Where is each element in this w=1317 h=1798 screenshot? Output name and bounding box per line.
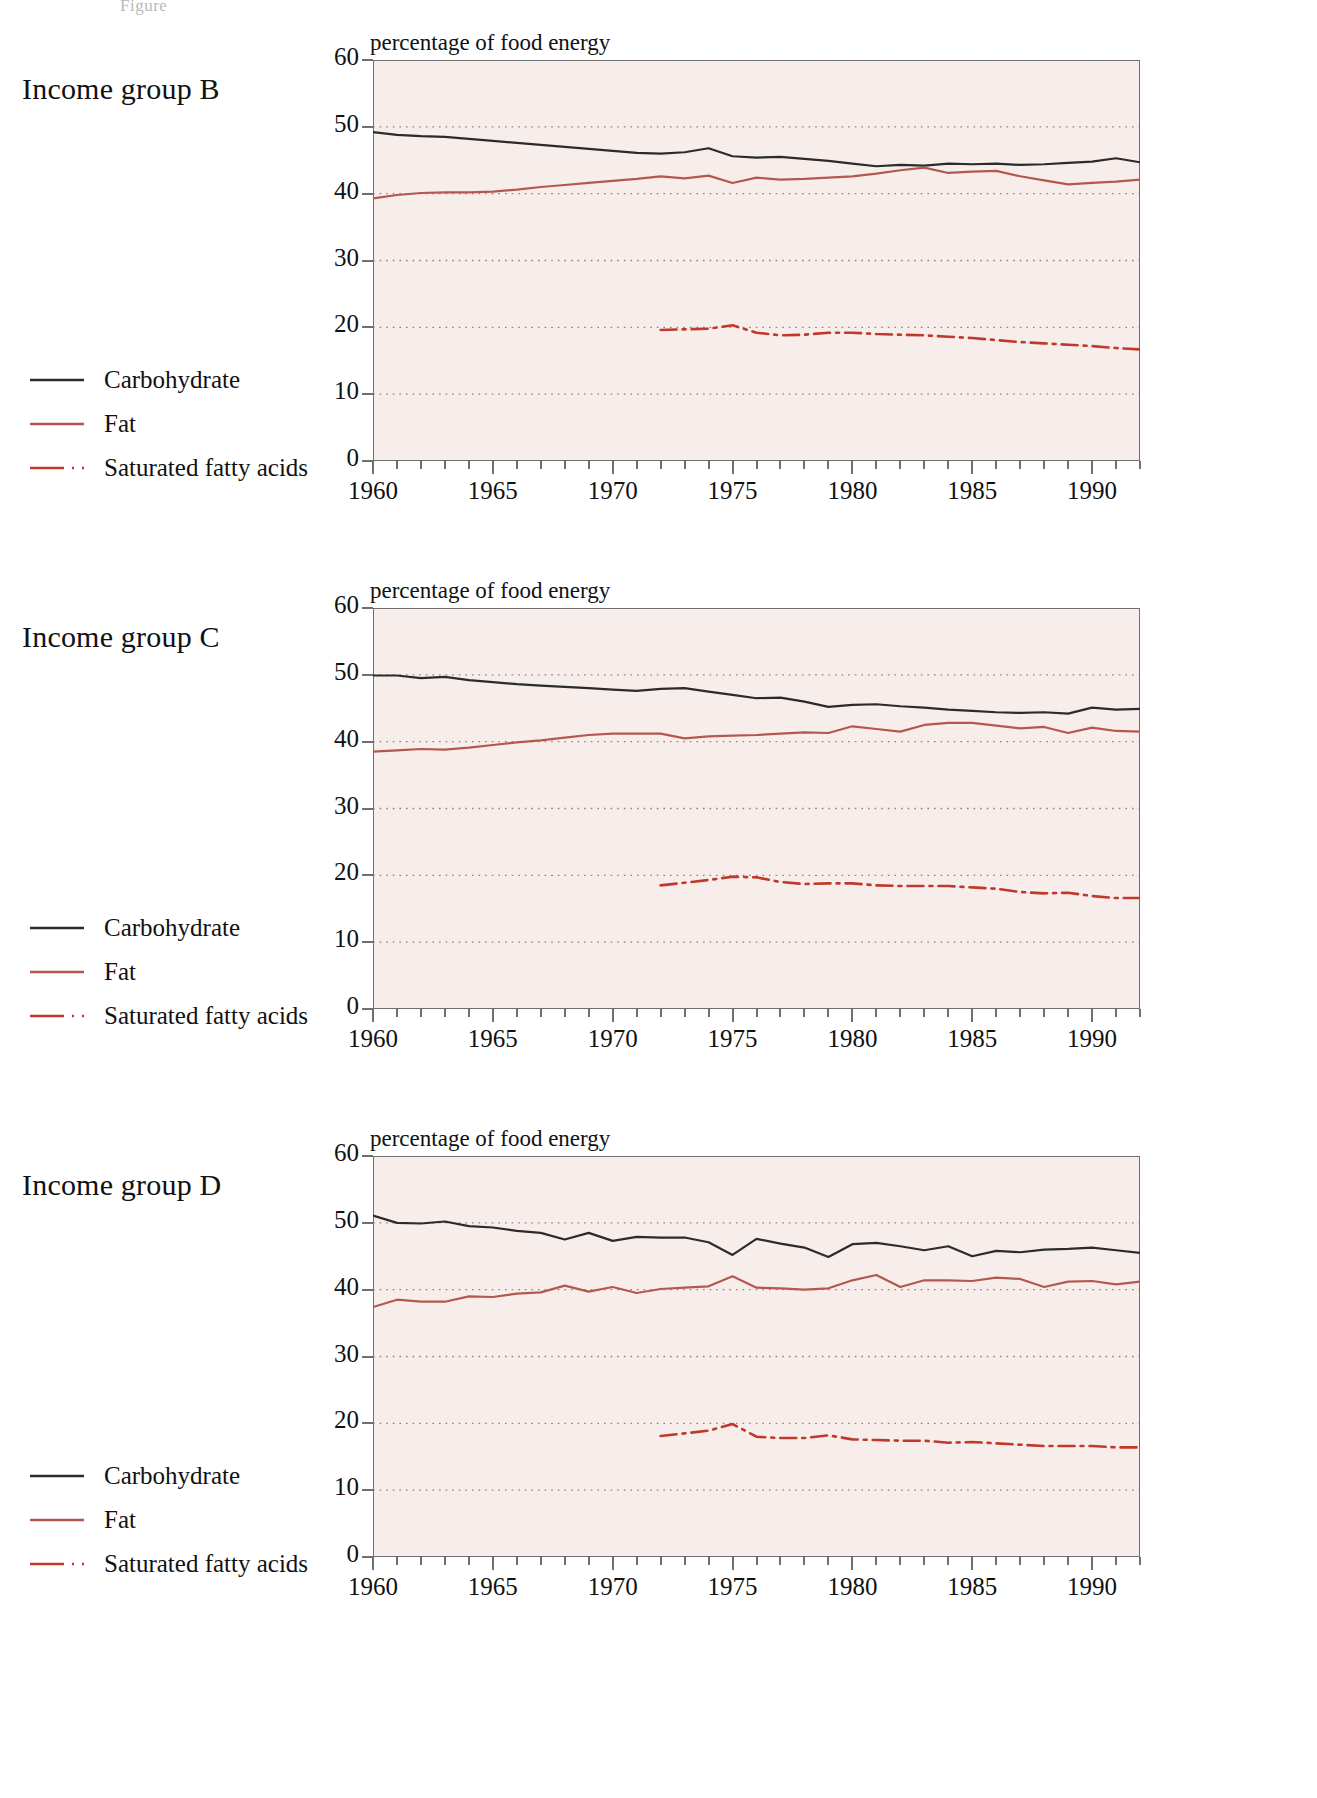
y-tick-label: 0: [301, 444, 359, 472]
x-tick-mark-minor: [875, 461, 877, 469]
x-tick-mark-major: [612, 1557, 614, 1570]
legend-fat: Fat: [28, 950, 308, 994]
x-tick-mark-minor: [516, 461, 518, 469]
x-tick-mark-minor: [588, 461, 590, 469]
x-tick-mark-minor: [468, 1009, 470, 1017]
x-tick-mark-major: [372, 461, 374, 474]
plot-area: [373, 608, 1140, 1009]
y-tick-mark: [362, 674, 373, 676]
x-tick-mark-minor: [1139, 461, 1141, 469]
x-tick-label: 1990: [1042, 1025, 1142, 1053]
x-tick-mark-major: [732, 1009, 734, 1022]
y-tick-mark: [362, 941, 373, 943]
legend-label: Carbohydrate: [104, 914, 240, 942]
y-tick-label: 40: [301, 725, 359, 753]
x-tick-mark-major: [851, 1009, 853, 1022]
x-tick-mark-major: [372, 1009, 374, 1022]
legend-line-swatch: [28, 918, 86, 938]
x-tick-mark-minor: [516, 1557, 518, 1565]
y-tick-mark: [362, 1422, 373, 1424]
y-tick-mark: [362, 393, 373, 395]
x-tick-label: 1985: [922, 477, 1022, 505]
legend-line-swatch: [28, 458, 86, 478]
x-tick-mark-minor: [1115, 1009, 1117, 1017]
y-axis-title: percentage of food energy: [370, 1126, 610, 1152]
x-tick-mark-minor: [756, 1009, 758, 1017]
legend-saturated-fatty-acids: Saturated fatty acids: [28, 446, 308, 490]
legend-carbohydrate: Carbohydrate: [28, 358, 308, 402]
legend-line-swatch: [28, 1510, 86, 1530]
legend-line-swatch: [28, 1554, 86, 1574]
x-tick-mark-minor: [684, 1009, 686, 1017]
x-tick-label: 1970: [563, 1025, 663, 1053]
y-tick-label: 60: [301, 591, 359, 619]
x-tick-label: 1965: [443, 1573, 543, 1601]
y-tick-label: 50: [301, 658, 359, 686]
chart-lines: [373, 1156, 1140, 1557]
x-tick-mark-minor: [708, 1009, 710, 1017]
plot-area: [373, 1156, 1140, 1557]
x-tick-mark-minor: [947, 1009, 949, 1017]
x-tick-mark-minor: [468, 461, 470, 469]
x-tick-mark-minor: [756, 1557, 758, 1565]
x-tick-mark-minor: [923, 461, 925, 469]
y-tick-mark: [362, 874, 373, 876]
chart-lines: [373, 608, 1140, 1009]
x-tick-label: 1980: [802, 477, 902, 505]
legend-saturated-fatty-acids: Saturated fatty acids: [28, 1542, 308, 1586]
x-tick-mark-major: [612, 1009, 614, 1022]
x-tick-mark-minor: [995, 461, 997, 469]
x-tick-mark-major: [1091, 461, 1093, 474]
x-tick-mark-minor: [636, 461, 638, 469]
x-tick-mark-major: [851, 1557, 853, 1570]
x-tick-mark-minor: [803, 1009, 805, 1017]
x-tick-mark-minor: [396, 1009, 398, 1017]
x-tick-mark-minor: [1043, 461, 1045, 469]
x-tick-mark-major: [732, 1557, 734, 1570]
legend-line-swatch: [28, 962, 86, 982]
y-tick-label: 20: [301, 1406, 359, 1434]
chart-legend: CarbohydrateFatSaturated fatty acids: [28, 906, 308, 1038]
x-tick-mark-major: [1091, 1009, 1093, 1022]
y-tick-label: 60: [301, 43, 359, 71]
x-tick-mark-minor: [1043, 1009, 1045, 1017]
chart-legend: CarbohydrateFatSaturated fatty acids: [28, 1454, 308, 1586]
x-tick-mark-major: [372, 1557, 374, 1570]
x-tick-mark-minor: [1043, 1557, 1045, 1565]
y-tick-mark: [362, 193, 373, 195]
y-tick-label: 40: [301, 1273, 359, 1301]
x-tick-mark-minor: [875, 1557, 877, 1565]
x-tick-mark-minor: [1067, 1009, 1069, 1017]
y-tick-mark: [362, 607, 373, 609]
x-tick-mark-minor: [1139, 1557, 1141, 1565]
chart-legend: CarbohydrateFatSaturated fatty acids: [28, 358, 308, 490]
panel-income-group-c: Income group C percentage of food energy…: [0, 548, 1317, 1068]
x-tick-mark-minor: [516, 1009, 518, 1017]
x-tick-mark-minor: [1067, 461, 1069, 469]
legend-fat: Fat: [28, 402, 308, 446]
y-tick-mark: [362, 326, 373, 328]
x-tick-mark-minor: [1139, 1009, 1141, 1017]
x-tick-mark-minor: [708, 461, 710, 469]
x-tick-mark-minor: [684, 1557, 686, 1565]
y-axis-title: percentage of food energy: [370, 578, 610, 604]
x-tick-mark-minor: [995, 1557, 997, 1565]
y-tick-mark: [362, 126, 373, 128]
y-tick-label: 20: [301, 858, 359, 886]
legend-label: Fat: [104, 958, 136, 986]
plot-area: [373, 60, 1140, 461]
x-tick-label: 1960: [323, 1025, 423, 1053]
x-tick-mark-minor: [540, 1557, 542, 1565]
x-tick-mark-minor: [899, 1557, 901, 1565]
x-tick-mark-minor: [444, 461, 446, 469]
x-tick-mark-minor: [636, 1009, 638, 1017]
x-tick-mark-minor: [660, 1557, 662, 1565]
x-tick-mark-minor: [588, 1009, 590, 1017]
y-tick-label: 40: [301, 177, 359, 205]
y-tick-label: 60: [301, 1139, 359, 1167]
legend-label: Carbohydrate: [104, 1462, 240, 1490]
y-tick-label: 10: [301, 925, 359, 953]
y-tick-label: 10: [301, 377, 359, 405]
x-tick-mark-major: [851, 461, 853, 474]
x-tick-mark-minor: [564, 1009, 566, 1017]
